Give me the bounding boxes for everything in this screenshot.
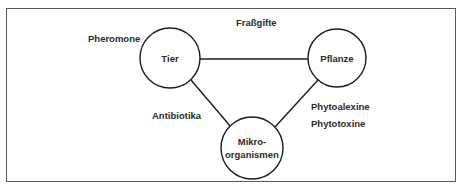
edge-label-phytoalexine: Phytoalexine (311, 101, 370, 112)
edge-label-antibiotika: Antibiotika (152, 110, 202, 121)
edge-label-phytotoxine: Phytotoxine (311, 118, 365, 129)
node-mikroorganismen-label-line2: organismen (225, 149, 279, 160)
node-tier-label: Tier (161, 53, 179, 64)
node-pflanze-label: Pflanze (320, 53, 353, 64)
diagram-screenshot: Tier Pflanze Mikro- organismen Pheromone… (0, 0, 466, 194)
edge-label-pheromone: Pheromone (88, 33, 140, 44)
node-mikroorganismen-label-line1: Mikro- (238, 136, 267, 147)
edge-label-frassgifte: Fraßgifte (236, 17, 277, 28)
relationship-triangle-diagram: Tier Pflanze Mikro- organismen Pheromone… (0, 0, 466, 194)
